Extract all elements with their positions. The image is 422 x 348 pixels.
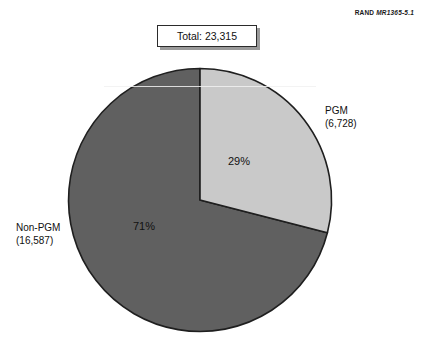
pie-chart-figure: RAND MR1365-5.1 Total: 23,315 29% 71% PG… [0, 0, 422, 348]
pie-svg [0, 0, 422, 348]
pie-label-non-pgm-name: Non-PGM [16, 222, 60, 235]
pie-label-non-pgm-value: (16,587) [16, 235, 60, 248]
pie-percent-non-pgm: 71% [133, 221, 155, 232]
pie-label-non-pgm: Non-PGM (16,587) [16, 222, 60, 247]
pie-label-pgm-name: PGM [325, 105, 357, 118]
pie-area: 29% 71% [0, 0, 422, 348]
pie-label-pgm: PGM (6,728) [325, 105, 357, 130]
pie-label-pgm-value: (6,728) [325, 118, 357, 131]
pie-percent-pgm: 29% [228, 156, 250, 167]
